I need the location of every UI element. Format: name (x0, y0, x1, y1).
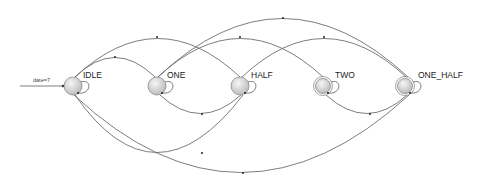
state-label: ONE_HALF (418, 70, 463, 80)
transition-onehalf-idle[interactable] (74, 95, 409, 173)
arrowhead-icon (161, 92, 163, 94)
transition-marker-icon (282, 17, 284, 19)
initial-transition-label: date=7 (33, 77, 50, 83)
transition-marker-icon (323, 36, 325, 38)
state-label: IDLE (83, 70, 102, 80)
transition-marker-icon (239, 36, 241, 38)
upper-transitions (75, 17, 408, 77)
state-idle[interactable]: IDLE (64, 70, 102, 95)
state-circle (231, 77, 249, 95)
transition-marker-icon (156, 36, 158, 38)
state-one[interactable]: ONE (148, 70, 186, 95)
state-one-half[interactable]: ONE_HALF (396, 70, 463, 96)
state-label: ONE (167, 70, 186, 80)
arrowhead-icon (244, 92, 246, 94)
state-half[interactable]: HALF (231, 70, 273, 95)
transition-marker-icon (242, 172, 244, 174)
initial-transition: date=7 (20, 77, 64, 87)
state-circle (398, 79, 413, 94)
lower-transitions (74, 95, 409, 174)
state-circle (148, 77, 166, 95)
state-circle (64, 77, 82, 95)
transition-one-half[interactable] (160, 95, 241, 114)
transition-marker-icon (114, 56, 116, 58)
state-label: HALF (251, 70, 273, 80)
arrowhead-icon (327, 92, 329, 94)
transition-marker-icon (201, 152, 203, 154)
transition-two-onehalf[interactable] (326, 95, 407, 114)
transition-marker-icon (369, 113, 371, 115)
state-circle (316, 79, 331, 94)
state-label: TWO (335, 70, 355, 80)
transition-marker-icon (201, 113, 203, 115)
transition-half-idle[interactable] (75, 95, 243, 153)
state-diagram: date=7 IDLE (0, 0, 477, 186)
arrowhead-icon (409, 92, 411, 94)
arrowhead-icon (77, 92, 79, 94)
